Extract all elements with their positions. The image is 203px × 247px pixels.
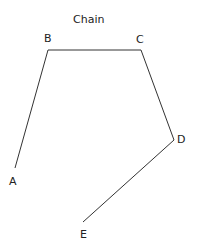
node-label-d: D xyxy=(177,134,185,145)
chain-polyline xyxy=(15,50,174,222)
chain-diagram xyxy=(0,0,203,247)
node-label-c: C xyxy=(136,34,144,45)
node-label-e: E xyxy=(80,229,87,240)
diagram-title: Chain xyxy=(73,14,104,25)
node-label-a: A xyxy=(9,176,17,187)
node-label-b: B xyxy=(44,33,52,44)
